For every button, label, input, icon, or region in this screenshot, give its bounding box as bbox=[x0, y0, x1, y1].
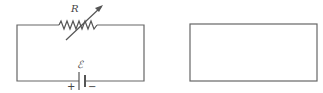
battery-icon bbox=[79, 72, 85, 90]
variable-resistor-icon bbox=[59, 5, 103, 40]
negative-terminal-label: − bbox=[88, 82, 96, 92]
resistor-label: R bbox=[71, 4, 79, 14]
wire-top-right bbox=[86, 25, 144, 81]
empty-box bbox=[190, 24, 317, 81]
positive-terminal-label: + bbox=[67, 82, 75, 92]
wire-top-left bbox=[17, 25, 79, 81]
left-circuit bbox=[17, 25, 144, 81]
circuit-diagram bbox=[0, 0, 323, 93]
emf-label: ℰ bbox=[77, 60, 83, 70]
